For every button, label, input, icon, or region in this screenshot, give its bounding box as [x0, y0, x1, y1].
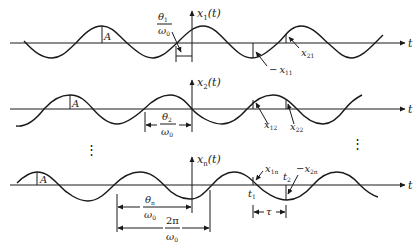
- ensemble-sinusoid-diagram: t x1(t) A θ1 ω0 −x11 x21 t: [0, 0, 417, 252]
- phase-label-2: θ2: [162, 111, 172, 123]
- sample-label-x2n: −x2n: [296, 163, 318, 175]
- ellipsis-left: ⋮: [85, 142, 98, 157]
- xn-waveform: [17, 172, 378, 201]
- row-x2: t x2(t) A θ2 ω0 x12 x22: [10, 76, 413, 138]
- sample-label-x21: x21: [301, 47, 314, 59]
- t-axis-label-2: t: [408, 103, 413, 116]
- sample-label-x11: −x11: [269, 64, 293, 76]
- sample-pointer-x1n: [256, 171, 263, 180]
- row-xn: t xn(t) A θn ω0 2π ω0 t1: [10, 153, 413, 243]
- x1-axis-label: x1(t): [197, 7, 221, 22]
- sample-label-x22: x22: [290, 121, 303, 133]
- tau-label: τ: [266, 206, 272, 217]
- t-axis-label-n: t: [408, 179, 413, 192]
- phase-denominator-2: ω0: [161, 126, 173, 138]
- phase-label-1: θ1: [158, 11, 168, 23]
- xn-axis-label: xn(t): [197, 153, 221, 168]
- phase-label-n: θn: [145, 194, 155, 206]
- period-denominator-n: ω0: [166, 231, 178, 243]
- sample-label-x12: x12: [264, 119, 277, 131]
- sample-pointer-x11: [256, 52, 267, 66]
- x1-waveform: [24, 26, 383, 58]
- x2-waveform: [16, 95, 362, 126]
- row-x1: t x1(t) A θ1 ω0 −x11 x21: [10, 7, 413, 76]
- phase-denominator-n: ω0: [144, 209, 156, 221]
- t-axis-label-1: t: [408, 37, 413, 50]
- ellipsis-right: ⋮: [351, 136, 364, 151]
- amplitude-label-2: A: [71, 98, 79, 109]
- sample-label-x1n: x1n: [265, 163, 278, 175]
- x2-axis-label: x2(t): [197, 76, 221, 91]
- amplitude-label-n: A: [39, 174, 47, 185]
- time-mark-t1: t1: [248, 188, 256, 200]
- time-mark-t2: t2: [283, 171, 291, 183]
- phase-denominator-1: ω0: [158, 25, 170, 37]
- period-label-n: 2π: [166, 215, 179, 226]
- amplitude-label-1: A: [103, 31, 111, 42]
